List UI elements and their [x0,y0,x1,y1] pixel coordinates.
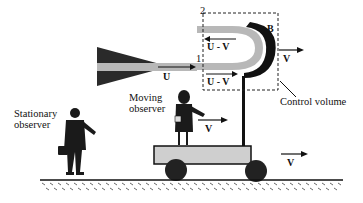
relative-velocity-bottom-label: U - V [207,76,230,87]
control-volume-label: Control volume [280,96,346,107]
arrow-u-minus-v-bottom-icon [232,71,238,77]
arrow-cv-velocity-icon [297,47,304,53]
relative-velocity-top-label: U - V [207,41,230,52]
station-2-label: 2 [200,5,205,16]
diagram-canvas: 2 1 B U U - V U - V V Control volume Mov… [0,0,363,203]
cart-wheel-left [165,159,187,181]
vane-support-post [242,76,245,146]
moving-observer-velocity-label: V [205,123,212,134]
ground-hatch [42,183,341,190]
control-volume-leader [280,81,296,97]
cart-platform [154,146,251,164]
stationary-observer-label-line2: observer [14,119,50,130]
cv-velocity-v-label: V [283,53,290,64]
arrow-cart-velocity-icon [301,151,308,157]
stationary-observer-figure [58,108,96,175]
cart-velocity-v-label: V [287,157,294,168]
moving-observer-label-line2: observer [129,103,165,114]
cart-wheel-right [245,160,267,182]
vane-b-label: B [267,23,274,34]
moving-observer-figure [175,90,205,145]
stationary-observer-label-line1: Stationary [14,108,57,119]
station-1-label: 1 [196,53,201,64]
jet-velocity-u-label: U [163,71,170,82]
arrow-moving-observer-velocity-icon [221,117,228,123]
moving-observer-label-line1: Moving [129,92,162,103]
